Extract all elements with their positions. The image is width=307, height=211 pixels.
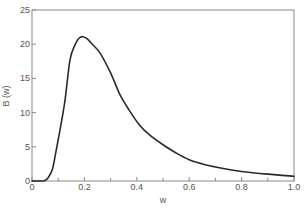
x-tick-label: 0.8 bbox=[235, 182, 248, 192]
y-tick-label: 0 bbox=[25, 176, 30, 186]
y-axis-ticks: 0510152025 bbox=[20, 5, 36, 186]
data-line-b-w bbox=[32, 37, 294, 181]
x-axis-label: w bbox=[159, 195, 167, 205]
y-tick-label: 10 bbox=[20, 108, 30, 118]
plot-frame bbox=[32, 10, 294, 181]
x-tick-label: 0.6 bbox=[183, 182, 196, 192]
x-tick-label: 0 bbox=[29, 182, 34, 192]
y-tick-label: 15 bbox=[20, 73, 30, 83]
x-tick-label: 1.0 bbox=[288, 182, 301, 192]
y-axis-label: B (w) bbox=[1, 86, 11, 107]
y-tick-label: 25 bbox=[20, 5, 30, 15]
chart: 00.20.40.60.81.0 0510152025 w B (w) bbox=[0, 0, 307, 211]
y-tick-label: 20 bbox=[20, 39, 30, 49]
plot-border bbox=[32, 10, 294, 181]
x-tick-label: 0.4 bbox=[131, 182, 144, 192]
x-tick-label: 0.2 bbox=[78, 182, 91, 192]
y-tick-label: 5 bbox=[25, 142, 30, 152]
x-axis-ticks: 00.20.40.60.81.0 bbox=[29, 177, 300, 192]
